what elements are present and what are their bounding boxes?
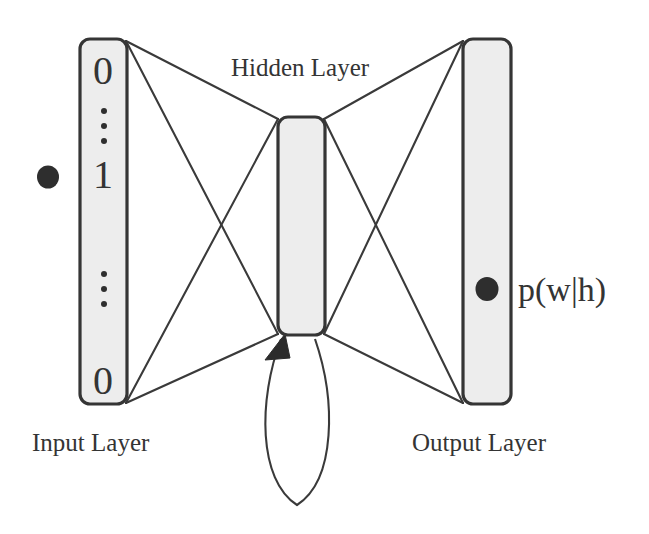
ellipsis-dot <box>101 286 107 292</box>
connection-input-top-to-hidden-bottom <box>126 41 278 334</box>
ellipsis-dot <box>101 301 107 307</box>
hidden-to-output-connections <box>324 41 463 403</box>
output-layer-box <box>463 39 511 404</box>
input-cell-1-value: 1 <box>93 152 113 197</box>
hidden-layer-label: Hidden Layer <box>231 54 370 81</box>
input-layer-label: Input Layer <box>32 429 150 456</box>
output-marker-dot <box>476 277 499 301</box>
input-ellipsis-lower <box>101 271 107 316</box>
input-to-hidden-connections <box>126 41 278 403</box>
ellipsis-dot <box>101 138 107 144</box>
ellipsis-dot <box>101 271 107 277</box>
input-cell-0-bottom: 0 <box>93 358 113 403</box>
connection-hidden-top-to-output-bottom <box>324 119 463 403</box>
ellipsis-dot <box>101 123 107 129</box>
connection-hidden-bottom-to-output-top <box>324 41 463 334</box>
connection-input-bottom-to-hidden-top <box>126 119 278 403</box>
recurrent-loop-path <box>265 339 329 505</box>
diagram-canvas: 0 1 0 Hidden Layer Input Layer Output La… <box>0 0 649 534</box>
neural-network-diagram: 0 1 0 Hidden Layer Input Layer Output La… <box>0 0 649 534</box>
connection-input-bottom-to-hidden-bottom <box>126 334 278 403</box>
input-cell-0-top: 0 <box>93 48 113 93</box>
hidden-layer-box <box>278 117 325 335</box>
input-ellipsis-upper <box>101 108 107 153</box>
ellipsis-dot <box>101 108 107 114</box>
probability-label: p(w|h) <box>518 271 606 309</box>
connection-hidden-bottom-to-output-bottom <box>324 334 463 403</box>
output-layer-label: Output Layer <box>412 429 547 456</box>
input-layer-box <box>80 39 127 404</box>
input-marker-dot <box>37 166 59 189</box>
recurrent-loop <box>265 334 329 505</box>
